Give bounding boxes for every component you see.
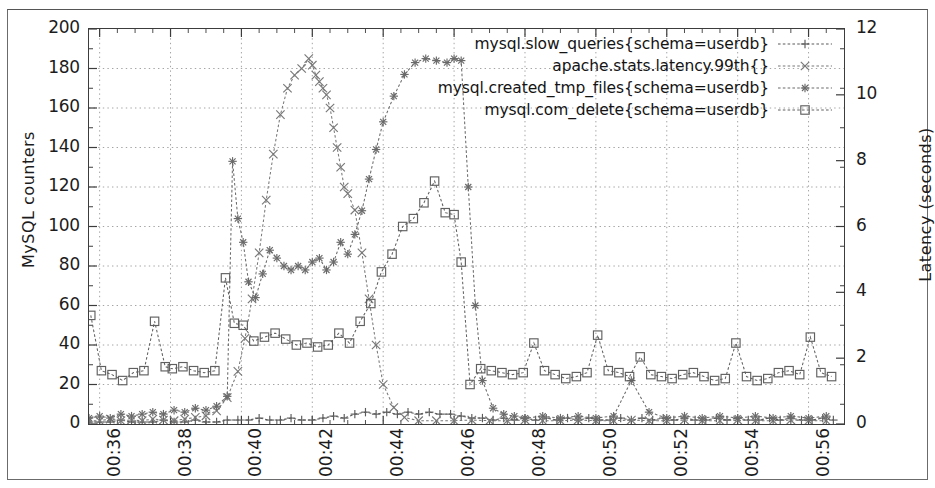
chart-figure: MySQL counters Latency (seconds) 0204060…: [0, 0, 935, 488]
y-tick-left-200: 200: [32, 19, 80, 36]
legend-marker-square-icon: [776, 100, 834, 120]
legend-label: mysql.slow_queries{schema=userdb}: [475, 35, 769, 53]
legend: mysql.slow_queries{schema=userdb}apache.…: [430, 33, 834, 121]
y-tick-left-60: 60: [32, 296, 80, 313]
series-3: [89, 177, 836, 389]
x-tick-00-54: 00:54: [744, 428, 761, 477]
y-tick-left-180: 180: [32, 59, 80, 76]
x-tick-00-42: 00:42: [318, 428, 335, 477]
legend-marker-cross-icon: [776, 56, 834, 76]
x-tick-00-44: 00:44: [389, 428, 406, 477]
legend-label: mysql.created_tmp_files{schema=userdb}: [438, 79, 769, 97]
legend-item-2[interactable]: mysql.created_tmp_files{schema=userdb}: [430, 77, 834, 99]
y-tick-right-6: 6: [856, 217, 896, 234]
legend-label: mysql.com_delete{schema=userdb}: [485, 101, 769, 119]
y-tick-left-80: 80: [32, 256, 80, 273]
x-tick-00-38: 00:38: [177, 428, 194, 477]
x-tick-00-48: 00:48: [531, 428, 548, 477]
x-tick-00-40: 00:40: [247, 428, 264, 477]
y-tick-left-0: 0: [32, 414, 80, 431]
legend-marker-plus-icon: [776, 34, 834, 54]
legend-label: apache.stats.latency.99th{}: [552, 57, 769, 75]
x-tick-00-50: 00:50: [602, 428, 619, 477]
y-tick-left-100: 100: [32, 217, 80, 234]
y-tick-left-20: 20: [32, 375, 80, 392]
y-tick-left-140: 140: [32, 138, 80, 155]
legend-item-1[interactable]: apache.stats.latency.99th{}: [430, 55, 834, 77]
legend-item-3[interactable]: mysql.com_delete{schema=userdb}: [430, 99, 834, 121]
y-tick-right-8: 8: [856, 151, 896, 168]
series-0: [89, 408, 838, 424]
legend-marker-star-icon: [776, 78, 834, 98]
y-tick-left-120: 120: [32, 177, 80, 194]
y-tick-right-2: 2: [856, 348, 896, 365]
y-tick-right-4: 4: [856, 282, 896, 299]
x-tick-00-36: 00:36: [106, 428, 123, 477]
x-tick-00-46: 00:46: [460, 428, 477, 477]
x-tick-00-52: 00:52: [673, 428, 690, 477]
y-axis-title-right: Latency (seconds): [916, 117, 935, 292]
y-tick-right-10: 10: [856, 85, 896, 102]
x-tick-00-56: 00:56: [815, 428, 832, 477]
legend-item-0[interactable]: mysql.slow_queries{schema=userdb}: [430, 33, 834, 55]
y-tick-left-160: 160: [32, 98, 80, 115]
y-tick-right-0: 0: [856, 414, 896, 431]
y-tick-right-12: 12: [856, 19, 896, 36]
y-tick-left-40: 40: [32, 335, 80, 352]
